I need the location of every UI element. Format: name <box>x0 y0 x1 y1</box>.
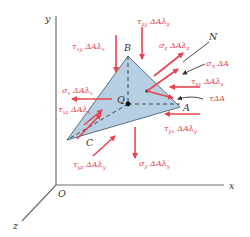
point-q <box>126 102 131 107</box>
y-axis-label: y <box>44 13 51 24</box>
arrow-sigma-z <box>154 53 183 76</box>
x-axis-label: x <box>229 180 235 191</box>
label-sigma-x: σx ΔAλx <box>62 86 94 96</box>
vertex-q-label: Q <box>117 94 125 105</box>
label-sigma-y: σy ΔAλy <box>139 159 171 170</box>
sigma-n-leader <box>183 64 205 74</box>
vertex-a-label: A <box>182 102 190 113</box>
label-tau-xy: τxy ΔAλx <box>72 42 106 53</box>
label-sigma-z: σz ΔAλz <box>159 41 190 51</box>
arrow-tau-yz <box>93 136 115 156</box>
origin-label: O <box>58 188 66 199</box>
label-sigma-n: σn ΔA <box>206 59 229 69</box>
tau-leader <box>178 97 203 99</box>
z-axis-label: z <box>12 220 19 231</box>
normal-label: N <box>208 31 218 42</box>
z-axis <box>22 185 56 221</box>
label-tau-dA: τΔA <box>209 94 225 103</box>
vertex-b-label: B <box>123 42 131 53</box>
label-tau-zy: τzy ΔAλz <box>137 17 170 28</box>
label-tau-yz: τyz ΔAλy <box>73 160 107 171</box>
label-tau-yx: τyx ΔAλy <box>164 124 198 135</box>
stress-tetrahedron-diagram: y x z O Q B A C N <box>0 0 250 237</box>
label-tau-xz: τxz ΔAλx <box>58 105 92 115</box>
label-tau-zx: τzx ΔAλz <box>191 77 224 87</box>
vertex-c-label: C <box>86 137 94 148</box>
